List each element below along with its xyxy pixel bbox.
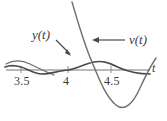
- axis-tick-label-4-5: 4.5: [104, 75, 120, 87]
- axis-tick-label-3-5: 3.5: [14, 75, 30, 87]
- curve-label-v-of-t: v(t): [129, 33, 147, 46]
- axis-name-label-t: t: [152, 62, 155, 74]
- curve-label-y-of-t: y(t): [32, 28, 50, 41]
- y-label-arrow-icon: [56, 40, 71, 56]
- curve-y-of-t: [5, 61, 150, 74]
- v-label-arrow-icon: [92, 37, 125, 43]
- plot-canvas: [0, 0, 167, 121]
- math-figure: 3.5 4 4.5 y(t) v(t) t: [0, 0, 167, 121]
- axis-tick-label-4: 4: [63, 75, 69, 87]
- curve-v-of-t: [72, 2, 156, 108]
